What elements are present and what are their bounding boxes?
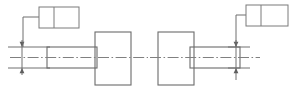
right-shaft-outline xyxy=(190,47,240,68)
drawing-canvas xyxy=(0,0,303,108)
right-arrowhead-bottom-icon xyxy=(234,68,239,73)
right-flange-block-outline xyxy=(158,32,194,85)
right-view-group xyxy=(150,5,288,85)
left-callout-box[interactable] xyxy=(39,7,79,28)
technical-drawing xyxy=(0,0,303,108)
right-callout-box[interactable] xyxy=(246,5,288,26)
left-flange-block-outline xyxy=(95,32,131,85)
left-callout-leader xyxy=(23,17,39,47)
left-arrowhead-top-icon xyxy=(20,42,25,47)
left-view-group xyxy=(8,7,148,85)
left-arrowhead-bottom-icon xyxy=(20,68,25,73)
